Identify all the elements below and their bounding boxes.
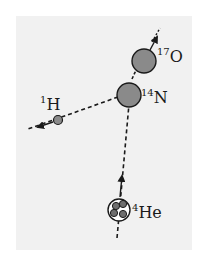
nitrogen-mass-number: 14 (141, 87, 154, 98)
helium-nucleus (108, 199, 130, 221)
nitrogen-label: 14N (141, 88, 168, 106)
oxygen-mass-number: 17 (157, 46, 170, 57)
helium-label: 4He (132, 203, 162, 221)
reaction-diagram (0, 0, 205, 257)
oxygen-symbol: O (170, 47, 183, 66)
nitrogen-symbol: N (154, 88, 168, 107)
hydrogen-label: 1H (40, 95, 60, 113)
oxygen-velocity-arrow (150, 37, 157, 50)
hydrogen-symbol: H (46, 95, 60, 114)
helium-symbol: He (138, 203, 161, 222)
hydrogen-nucleus (54, 116, 63, 125)
hydrogen-velocity-arrow (38, 122, 53, 127)
nitrogen-nucleus (117, 83, 141, 107)
oxygen-label: 17O (157, 47, 183, 65)
oxygen-nucleus (132, 49, 156, 73)
